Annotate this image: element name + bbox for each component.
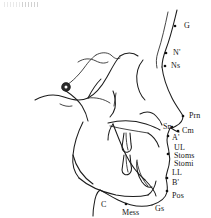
trace-upper-lip-profile bbox=[167, 128, 170, 153]
tracing-canvas bbox=[0, 0, 211, 218]
landmark-dot-ns bbox=[164, 65, 167, 68]
landmark-label-aprime: A' bbox=[172, 134, 179, 142]
landmark-label-prn: Prn bbox=[189, 112, 200, 120]
trace-neck-line bbox=[93, 190, 100, 216]
trace-lower-lip-profile bbox=[166, 153, 170, 178]
trace-soft-tissue-upper-face bbox=[120, 53, 138, 56]
trace-upper-incisor-root bbox=[126, 133, 128, 150]
trace-ear-canal-hint bbox=[60, 104, 72, 106]
trace-sphenoid-wing bbox=[96, 53, 120, 59]
landmark-dot-cm bbox=[177, 130, 180, 133]
trace-nose-bridge-upper bbox=[156, 12, 168, 68]
trace-maxilla-upper bbox=[108, 121, 160, 130]
landmark-label-nprime: N' bbox=[173, 49, 180, 57]
landmark-dot-aprime bbox=[167, 135, 170, 138]
landmark-dot-mess bbox=[125, 203, 128, 206]
landmark-dot-g bbox=[174, 25, 177, 28]
landmark-label-gs: Gs bbox=[155, 205, 164, 213]
trace-orbit-arc bbox=[137, 60, 145, 100]
trace-maxilla-anterior bbox=[148, 133, 159, 147]
landmark-label-g: G bbox=[184, 22, 190, 30]
landmark-dot-bprime bbox=[166, 177, 169, 180]
sella-turcica-marker bbox=[62, 83, 70, 91]
landmark-label-cm: Cm bbox=[182, 127, 194, 135]
trace-mandible-ramus-post bbox=[73, 122, 83, 178]
landmark-label-stomi: Stomi bbox=[174, 160, 194, 168]
landmark-label-ns: Ns bbox=[171, 62, 180, 70]
landmark-label-ll: LL bbox=[172, 169, 182, 177]
cephalometric-figure: GN'NsPrnSnCmA'ULStomsStomiLLB'PosGsMessC bbox=[0, 0, 211, 218]
landmark-label-c: C bbox=[101, 201, 106, 209]
landmark-dot-nprime bbox=[165, 52, 168, 55]
trace-sella-floor bbox=[78, 59, 108, 63]
landmark-label-mess: Mess bbox=[122, 209, 139, 217]
landmark-dot-stoms bbox=[167, 153, 170, 156]
trace-orbital-floor bbox=[88, 98, 110, 103]
landmark-dot-pos bbox=[166, 190, 169, 193]
anatomy-outline-group bbox=[35, 10, 183, 216]
landmark-label-pos: Pos bbox=[172, 192, 184, 200]
trace-gonial-curve bbox=[73, 155, 93, 184]
sella-marker-center bbox=[65, 86, 68, 89]
landmark-dot-prn bbox=[182, 115, 185, 118]
landmark-label-sn: Sn bbox=[163, 123, 172, 131]
trace-nose-dorsum bbox=[162, 67, 183, 116]
landmark-label-bprime: B' bbox=[172, 179, 179, 187]
trace-forehead-profile bbox=[162, 10, 177, 67]
